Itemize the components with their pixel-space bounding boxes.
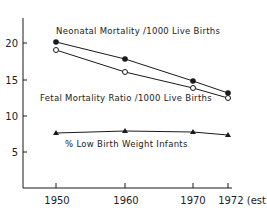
x-tick-label: 1950	[44, 195, 69, 206]
x-tick-label: 1970	[180, 195, 205, 206]
y-ticks: 20 15 10 5	[5, 38, 27, 158]
series-neonatal	[53, 39, 231, 96]
lbw-label: % Low Birth Weight Infants	[65, 139, 188, 149]
line-chart: 20 15 10 5 1950 1960 1970 1972 (est) Neo…	[0, 0, 267, 213]
x-tick-label: 1960	[113, 195, 138, 206]
data-point	[54, 48, 59, 53]
data-point	[225, 90, 231, 96]
y-tick-label: 20	[5, 38, 18, 49]
chart-canvas: 20 15 10 5 1950 1960 1970 1972 (est) Neo…	[0, 0, 267, 213]
data-point	[190, 78, 196, 84]
y-tick-label: 10	[5, 111, 18, 122]
neonatal-label: Neonatal Mortality /1000 Live Births	[56, 26, 221, 36]
data-point	[191, 86, 196, 91]
x-tick-label: 1972 (est)	[218, 195, 267, 206]
data-point	[122, 56, 128, 62]
y-tick-label: 5	[12, 147, 18, 158]
data-point	[122, 128, 128, 133]
y-tick-label: 15	[5, 75, 18, 86]
data-point	[53, 39, 59, 45]
fetal-label: Fetal Mortality Ratio /1000 Live Births	[40, 93, 212, 103]
x-ticks: 1950 1960 1970 1972 (est)	[44, 183, 267, 206]
data-point	[123, 70, 128, 75]
data-point	[226, 96, 231, 101]
series-lbw	[53, 128, 231, 137]
